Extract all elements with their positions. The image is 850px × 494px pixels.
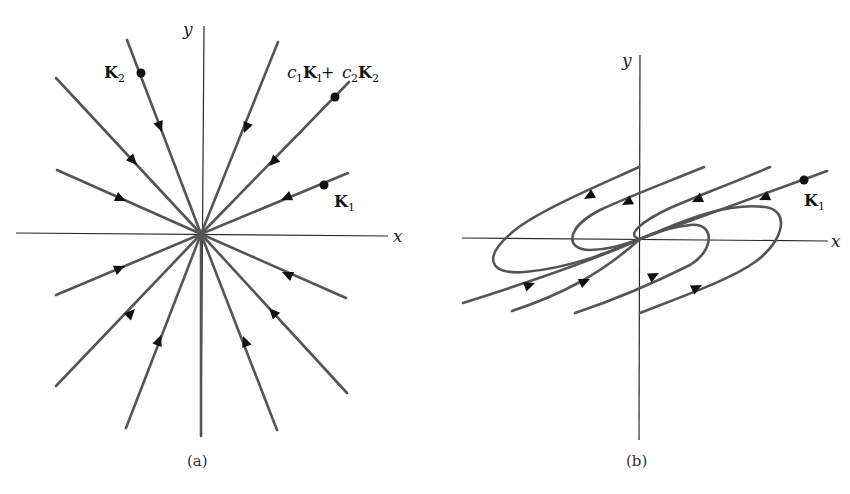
y-axis-label-b: y [621,50,632,70]
x-axis-label-a: x [393,226,403,246]
svg-text:K: K [804,191,819,210]
k1-label-b: K 1 [804,191,825,213]
caption-a: (a) [187,452,208,470]
trajectories-a [56,40,349,436]
svg-text:1: 1 [348,201,355,214]
y-axis-label-a: y [182,19,193,39]
svg-text:K: K [358,63,373,82]
combo-label-a: c 1 K 1 + c 2 K 2 [287,62,379,85]
k2-point-a [137,69,146,78]
k2-label-a: K 2 [104,63,125,85]
caption-b: (b) [626,452,647,470]
svg-text:2: 2 [372,72,379,85]
k1-point-b [800,176,809,185]
svg-text:1: 1 [818,200,825,213]
svg-text:K: K [104,63,119,82]
svg-text:1: 1 [296,72,303,85]
panel-a: x y [16,19,403,470]
svg-text:2: 2 [351,72,358,85]
k1-point-a [320,181,329,190]
y-axis-b [639,55,640,440]
k1-label-a: K 1 [334,192,355,214]
figure-canvas: x y [0,0,850,494]
panel-b: x y K 1 [462,50,841,470]
svg-text:+: + [321,63,334,82]
svg-text:2: 2 [118,72,125,85]
x-axis-label-b: x [831,231,841,251]
svg-text:K: K [334,192,349,211]
combo-point-a [331,93,340,102]
